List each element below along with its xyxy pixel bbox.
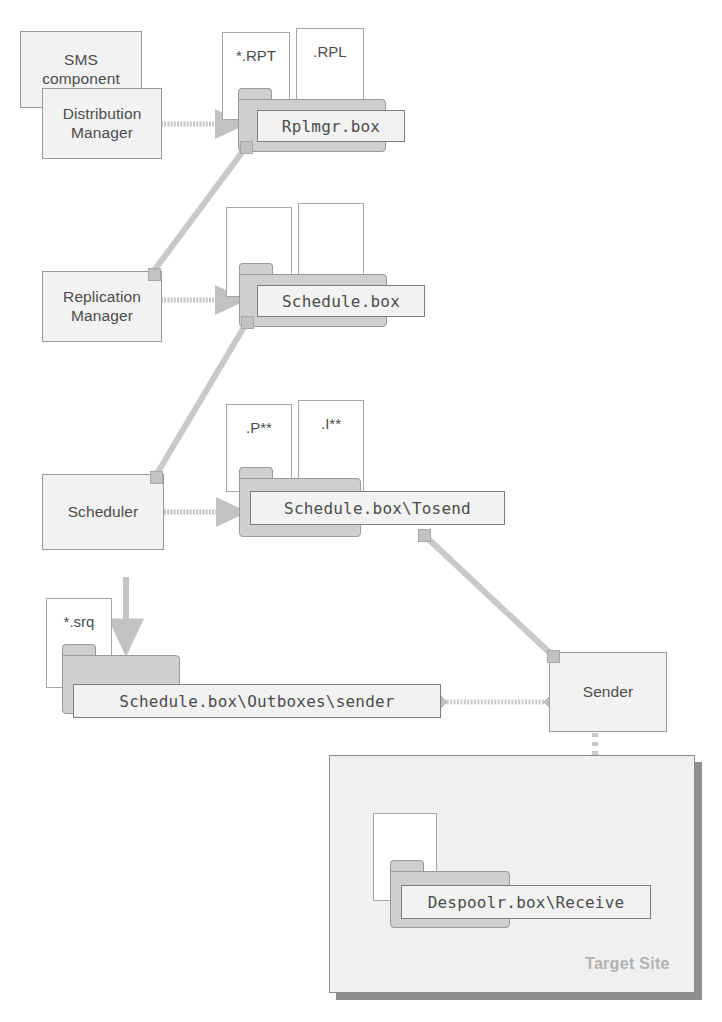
anchor-schedule-bottom-left bbox=[241, 316, 254, 329]
folder-schedule-label: Schedule.box bbox=[282, 292, 400, 311]
folder-schedule-plate: Schedule.box bbox=[257, 285, 425, 317]
component-replication-manager-label: ReplicationManager bbox=[63, 288, 141, 326]
anchor-sender-top-left bbox=[547, 650, 560, 663]
connector-tosend-to-sender bbox=[423, 534, 551, 654]
component-sender: Sender bbox=[549, 652, 667, 732]
document-rpt-label: *.RPT bbox=[236, 47, 276, 64]
component-distribution-manager-label: DistributionManager bbox=[63, 105, 142, 143]
target-site-label: Target Site bbox=[585, 955, 670, 973]
folder-outbox-sender-label: Schedule.box\Outboxes\sender bbox=[119, 692, 394, 711]
anchor-replication-manager-top-right bbox=[148, 268, 161, 281]
folder-rplmgr-label: Rplmgr.box bbox=[282, 117, 380, 136]
folder-despoolr-receive-label: Despoolr.box\Receive bbox=[428, 893, 625, 912]
folder-tosend-plate: Schedule.box\Tosend bbox=[250, 491, 505, 525]
component-scheduler-label: Scheduler bbox=[68, 503, 139, 522]
anchor-scheduler-top-right bbox=[150, 471, 163, 484]
component-distribution-manager: DistributionManager bbox=[42, 88, 162, 159]
document-srq-label: *.srq bbox=[64, 613, 95, 630]
component-sms-component-label: SMScomponent bbox=[42, 51, 120, 89]
document-rpl-label: .RPL bbox=[313, 43, 346, 60]
component-replication-manager: ReplicationManager bbox=[42, 271, 162, 342]
folder-despoolr-receive-plate: Despoolr.box\Receive bbox=[401, 885, 651, 919]
document-i-star-label: .I** bbox=[321, 415, 341, 432]
folder-rplmgr-plate: Rplmgr.box bbox=[257, 110, 405, 142]
connector-outbox-to-sender bbox=[433, 695, 558, 709]
document-p-star-label: .P** bbox=[246, 419, 272, 436]
anchor-tosend-bottom-right bbox=[418, 529, 431, 542]
component-sender-label: Sender bbox=[583, 683, 634, 702]
folder-outbox-sender-plate: Schedule.box\Outboxes\sender bbox=[73, 684, 441, 718]
folder-tosend-label: Schedule.box\Tosend bbox=[284, 499, 471, 518]
component-scheduler: Scheduler bbox=[42, 474, 164, 550]
anchor-rplmgr-bottom-left bbox=[240, 141, 253, 154]
diagram-canvas: *.RPT .RPL .P** .I** *.srq Target Site bbox=[0, 0, 722, 1022]
